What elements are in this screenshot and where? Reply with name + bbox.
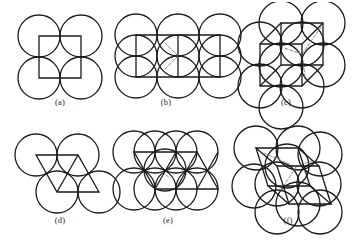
- rhombus-band: [134, 152, 218, 189]
- rhombus-shared-diagonal: [57, 155, 78, 192]
- panel-c-diagram: [222, 2, 352, 134]
- panel-c-caption: (c): [222, 98, 350, 107]
- band-diagonal-1: [155, 152, 176, 189]
- cube-edge-connector-4: [260, 65, 281, 86]
- cube-edge-connector-2: [302, 23, 323, 44]
- panel-e-caption: (e): [110, 216, 226, 225]
- interstitial-diagonal-2-dashed: [165, 56, 178, 69]
- band-diagonal-2: [176, 152, 197, 189]
- panel-f-caption: (f): [224, 216, 352, 225]
- figure-root: (a) (b) (c) (d) (e) (f): [0, 0, 355, 242]
- panel-d-caption: (d): [8, 216, 112, 225]
- panel-a: (a): [8, 6, 112, 118]
- panel-b-caption: (b): [110, 98, 222, 107]
- interstitial-diagonal-1-dashed: [165, 43, 178, 56]
- panel-b: (b): [110, 6, 222, 118]
- cube-edge-connector-1: [260, 23, 281, 44]
- panel-c: (c): [222, 2, 350, 118]
- panel-a-caption: (a): [8, 98, 112, 107]
- sphere-circle: [298, 190, 342, 234]
- panel-d-diagram: [8, 122, 124, 226]
- panel-d: (d): [8, 122, 112, 238]
- unit-square: [39, 36, 81, 78]
- panel-f: (f): [224, 120, 352, 238]
- panel-e-diagram: [110, 122, 242, 226]
- interior-diagonal-1-dashed: [264, 153, 296, 167]
- body-diagonal-left-dashed: [284, 48, 302, 54]
- panel-e: (e): [110, 122, 226, 238]
- panel-a-diagram: [8, 6, 112, 110]
